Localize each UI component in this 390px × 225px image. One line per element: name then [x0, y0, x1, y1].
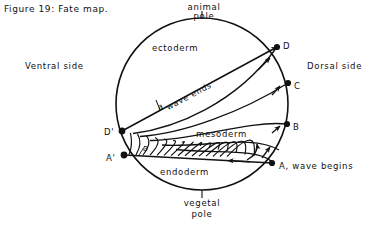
animal-pole-label-line2: pole [178, 11, 230, 22]
point-label-B: B [293, 122, 300, 133]
vegetal-pole-label-line1: vegetal [176, 198, 228, 209]
ventral-side-label: Ventral side [25, 61, 84, 72]
point-dot-D-prime [119, 128, 126, 135]
point-label-A-prime: A' [106, 153, 116, 164]
fate-map-figure: Figure 19: Fate map. animal pole vegetal… [0, 0, 390, 225]
point-dot-B [284, 121, 290, 127]
chord-arrow-1 [228, 161, 250, 162]
endoderm-label: endoderm [160, 167, 209, 178]
point-label-D: D [283, 41, 290, 52]
point-label-C: C [294, 81, 301, 92]
point-dot-C [285, 80, 291, 86]
point-label-D-prime: D' [104, 127, 114, 138]
egg-outline [116, 18, 288, 190]
figure-caption: Figure 19: Fate map. [4, 4, 108, 14]
dorsal-side-label: Dorsal side [307, 61, 362, 72]
point-dot-A-prime [121, 152, 128, 159]
point-dot-A [269, 160, 275, 166]
alpha-angle-label: a [143, 143, 148, 154]
ectoderm-label: ectoderm [152, 43, 198, 54]
fate-map-drawing [0, 0, 390, 225]
vegetal-pole-label-line2: pole [176, 209, 228, 220]
wave-begins-label: A, wave begins [279, 161, 353, 172]
mesoderm-label: mesoderm [196, 129, 247, 140]
point-dot-D [274, 44, 280, 50]
